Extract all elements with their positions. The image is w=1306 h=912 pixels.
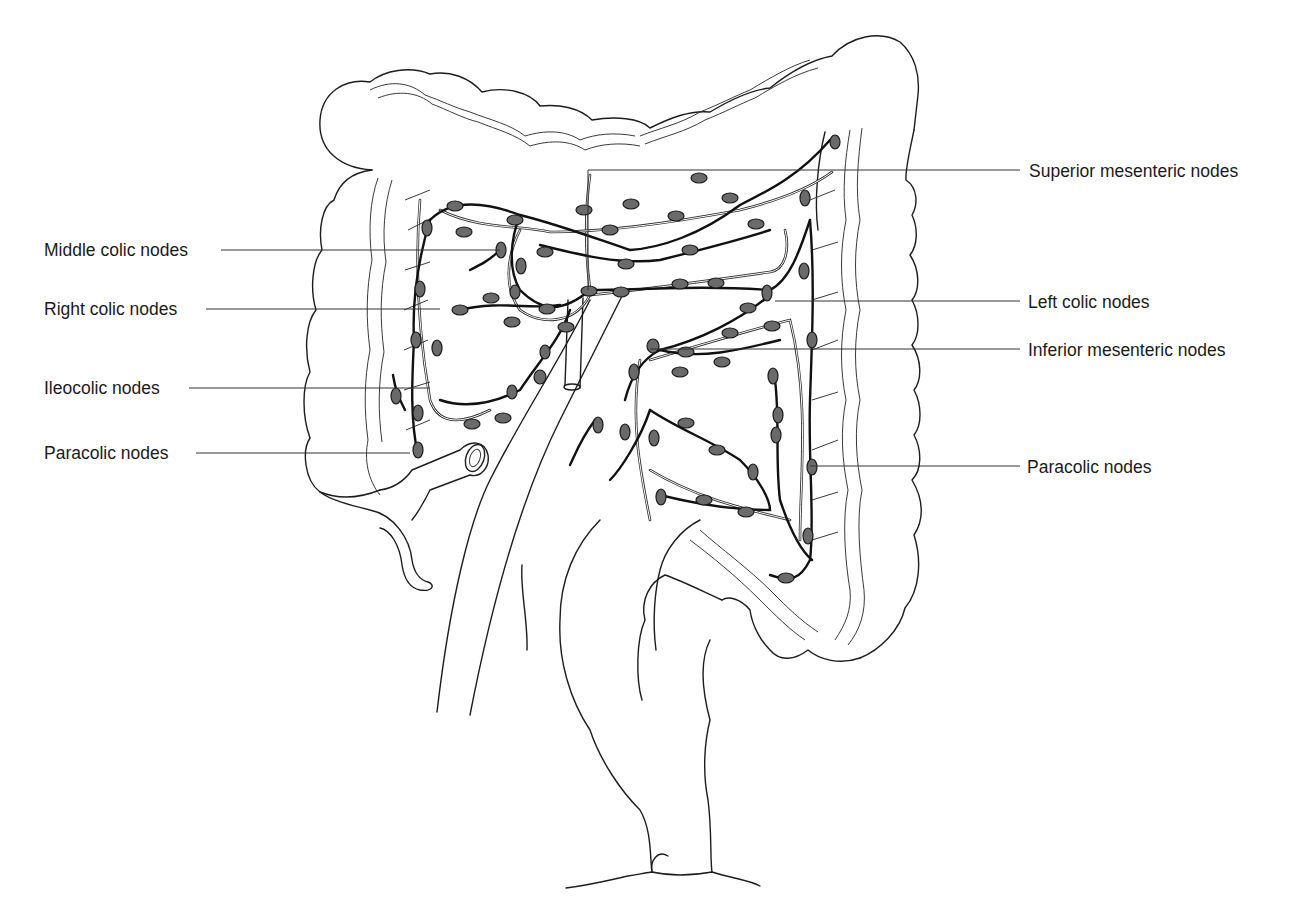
label-ileocolic-nodes: Ileocolic nodes	[44, 378, 160, 398]
label-inferior-mesenteric-nodes: Inferior mesenteric nodes	[1028, 340, 1225, 360]
leader-lines	[189, 170, 1020, 466]
label-superior-mesenteric-nodes: Superior mesenteric nodes	[1029, 161, 1238, 181]
label-right-colic-nodes: Right colic nodes	[44, 299, 177, 319]
label-middle-colic-nodes: Middle colic nodes	[44, 240, 188, 260]
colon-lymphatics-illustration	[0, 0, 1306, 912]
vessels	[404, 172, 838, 540]
label-left-colic-nodes: Left colic nodes	[1028, 292, 1150, 312]
label-paracolic-nodes-left: Paracolic nodes	[44, 443, 169, 463]
label-paracolic-nodes-right: Paracolic nodes	[1027, 457, 1152, 477]
colon-outline	[304, 36, 921, 888]
